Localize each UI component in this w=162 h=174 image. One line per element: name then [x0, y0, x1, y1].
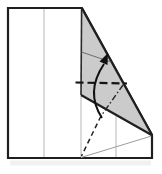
origami-diagram-page	[0, 0, 162, 174]
paper-drop-shadow	[10, 161, 151, 166]
origami-figure	[0, 0, 162, 174]
valley-fold-horizontal	[76, 83, 128, 84]
